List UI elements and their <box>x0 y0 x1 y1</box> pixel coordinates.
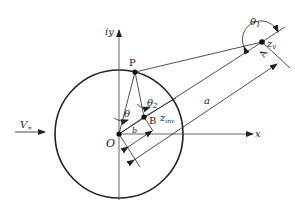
label-iy: iy <box>105 26 114 37</box>
label-theta2: θ2 <box>147 97 158 110</box>
label-b: b <box>132 126 137 135</box>
point-P <box>132 69 137 74</box>
line-P-A <box>135 42 262 72</box>
line-P-B <box>135 72 144 117</box>
label-A: A <box>257 48 270 60</box>
label-zinv: zinv <box>159 112 175 124</box>
point-B <box>141 114 146 119</box>
label-theta1: θ1 <box>250 16 261 29</box>
label-B: B <box>149 115 156 126</box>
label-zv: zv <box>266 38 276 51</box>
label-Vinf: V∞ <box>20 119 32 131</box>
label-P: P <box>129 57 136 68</box>
label-O: O <box>106 137 115 150</box>
point-O <box>116 131 121 136</box>
label-x: x <box>255 128 261 139</box>
line-A-extension <box>262 27 285 42</box>
airfoil-vortex-diagram: iy x P O θ θ2 θ1 zv A a B b zinv V∞ <box>0 0 295 210</box>
point-A <box>259 39 265 45</box>
label-theta: θ <box>124 108 130 119</box>
perp-baseline <box>119 134 140 167</box>
label-a: a <box>204 95 210 106</box>
